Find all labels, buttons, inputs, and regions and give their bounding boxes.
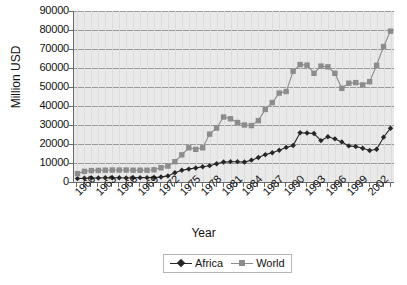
data-point	[263, 152, 268, 157]
data-point	[256, 155, 261, 160]
y-axis-tick-label: 40000	[7, 100, 69, 111]
y-axis-tick-label: 20000	[7, 138, 69, 149]
data-point	[277, 148, 282, 153]
legend-label: World	[256, 258, 285, 269]
y-axis-tick-label: 60000	[7, 62, 69, 73]
data-point	[82, 169, 87, 174]
data-point	[360, 145, 365, 150]
data-point	[283, 89, 288, 94]
data-point	[263, 107, 268, 112]
data-point	[297, 130, 302, 135]
data-point	[325, 134, 330, 139]
data-point	[256, 118, 261, 123]
y-axis-tick-mark	[69, 87, 73, 88]
data-point	[228, 116, 233, 121]
y-axis-tick-label: 50000	[7, 81, 69, 92]
data-point	[235, 120, 240, 125]
series-line	[78, 31, 391, 174]
data-point	[318, 63, 323, 68]
data-point	[144, 168, 149, 173]
y-axis-tick-mark	[69, 106, 73, 107]
data-point	[207, 163, 212, 168]
series-layer	[74, 11, 394, 182]
y-axis-tick-mark	[69, 182, 73, 183]
data-point	[249, 157, 254, 162]
data-point	[332, 71, 337, 76]
data-point	[346, 81, 351, 86]
data-point	[374, 63, 379, 68]
data-point	[179, 168, 184, 173]
data-point	[311, 71, 316, 76]
y-axis-tick-label: 10000	[7, 157, 69, 168]
data-point	[353, 144, 358, 149]
data-point	[353, 80, 358, 85]
plot-inner	[74, 11, 394, 182]
chart-container: Million USD 9000080000700006000050000400…	[0, 0, 407, 285]
data-point	[228, 159, 233, 164]
y-axis-tick-label: 70000	[7, 43, 69, 54]
data-point	[207, 131, 212, 136]
data-point	[304, 130, 309, 135]
diamond-marker-icon	[170, 258, 192, 269]
data-point	[165, 163, 170, 168]
data-point	[242, 159, 247, 164]
data-point	[270, 100, 275, 105]
y-axis-tick-mark	[69, 49, 73, 50]
y-axis-tick-labels: 9000080000700006000050000400003000020000…	[3, 0, 69, 285]
legend-item-world[interactable]: World	[231, 258, 285, 269]
data-point	[367, 148, 372, 153]
data-point	[96, 168, 101, 173]
data-point	[75, 171, 80, 176]
data-point	[304, 62, 309, 67]
data-point	[179, 152, 184, 157]
legend-marker	[177, 259, 185, 267]
data-point	[270, 150, 275, 155]
data-point	[346, 143, 351, 148]
data-point	[110, 167, 115, 172]
y-axis-tick-label: 90000	[7, 5, 69, 16]
x-axis-tick-mark	[390, 183, 391, 187]
data-point	[249, 123, 254, 128]
data-point	[186, 166, 191, 171]
data-point	[151, 167, 156, 172]
data-point	[332, 136, 337, 141]
data-point	[290, 143, 295, 148]
data-point	[325, 64, 330, 69]
y-axis-tick-mark	[69, 68, 73, 69]
data-point	[242, 122, 247, 127]
data-point	[103, 168, 108, 173]
data-point	[158, 165, 163, 170]
data-point	[214, 161, 219, 166]
data-point	[297, 62, 302, 67]
y-axis-tick-mark	[69, 125, 73, 126]
data-point	[388, 28, 393, 33]
data-point	[200, 164, 205, 169]
y-axis-tick-mark	[69, 163, 73, 164]
data-point	[283, 145, 288, 150]
data-point	[381, 44, 386, 49]
data-point	[290, 69, 295, 74]
series-world	[75, 28, 393, 176]
data-point	[117, 167, 122, 172]
data-point	[137, 168, 142, 173]
data-point	[360, 82, 365, 87]
legend-label: Africa	[195, 258, 223, 269]
data-point	[193, 147, 198, 152]
data-point	[277, 90, 282, 95]
data-point	[339, 86, 344, 91]
square-marker-icon	[231, 258, 253, 269]
data-point	[186, 145, 191, 150]
data-point	[367, 79, 372, 84]
x-axis-title: Year	[0, 226, 407, 240]
data-point	[172, 159, 177, 164]
y-axis-tick-label: 30000	[7, 119, 69, 130]
plot-area	[73, 11, 394, 183]
data-point	[89, 168, 94, 173]
data-point	[130, 168, 135, 173]
data-point	[214, 125, 219, 130]
data-point	[193, 165, 198, 170]
data-point	[200, 145, 205, 150]
data-point	[221, 159, 226, 164]
y-axis-tick-mark	[69, 144, 73, 145]
legend-item-africa[interactable]: Africa	[170, 258, 223, 269]
